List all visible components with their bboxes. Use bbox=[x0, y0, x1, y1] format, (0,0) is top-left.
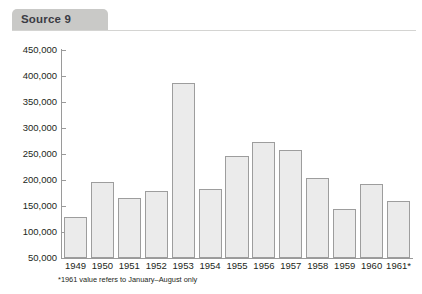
y-axis-tick-label: 450,000 bbox=[23, 45, 57, 55]
y-axis-tick-label: 300,000 bbox=[23, 123, 57, 133]
x-axis-tick-label: 1953 bbox=[170, 261, 197, 271]
bar bbox=[279, 150, 302, 258]
x-axis-tick-label: 1959 bbox=[331, 261, 358, 271]
y-axis-tick-label: 350,000 bbox=[23, 97, 57, 107]
x-axis-line bbox=[61, 258, 413, 259]
y-axis-tick: 50,000 bbox=[61, 258, 67, 259]
x-axis-labels: 1949195019511952195319541955195619571958… bbox=[62, 261, 412, 275]
bar-chart: 450,000400,000350,000300,000250,000200,0… bbox=[0, 0, 422, 294]
bar bbox=[145, 191, 168, 258]
y-axis-tick-label: 200,000 bbox=[23, 175, 57, 185]
y-axis-tick-label: 250,000 bbox=[23, 149, 57, 159]
y-axis-tick-label: 100,000 bbox=[23, 227, 57, 237]
bar bbox=[91, 182, 114, 258]
bar bbox=[387, 201, 410, 258]
bar bbox=[306, 178, 329, 258]
y-axis-tick-label: 150,000 bbox=[23, 201, 57, 211]
x-axis-tick-label: 1951 bbox=[116, 261, 143, 271]
bar bbox=[118, 198, 141, 258]
y-axis-tick-label: 50,000 bbox=[28, 253, 57, 263]
x-axis-tick-label: 1960 bbox=[358, 261, 385, 271]
bar bbox=[333, 209, 356, 258]
bar bbox=[360, 184, 383, 258]
x-axis-tick-label: 1955 bbox=[224, 261, 251, 271]
y-axis-tick-mark bbox=[61, 258, 66, 259]
x-axis-tick-label: 1950 bbox=[89, 261, 116, 271]
bar bbox=[64, 217, 87, 258]
x-axis-tick-label: 1957 bbox=[277, 261, 304, 271]
y-axis-tick-label: 400,000 bbox=[23, 71, 57, 81]
bar bbox=[199, 189, 222, 258]
x-axis-tick-label: 1954 bbox=[197, 261, 224, 271]
bar bbox=[172, 83, 195, 258]
bar bbox=[225, 156, 248, 258]
bar bbox=[252, 142, 275, 258]
x-axis-tick-label: 1949 bbox=[62, 261, 89, 271]
bar-series bbox=[62, 50, 412, 258]
chart-footnote: *1961 value refers to January–August onl… bbox=[58, 276, 197, 283]
x-axis-tick-label: 1958 bbox=[304, 261, 331, 271]
x-axis-tick-label: 1961* bbox=[385, 261, 412, 271]
x-axis-tick-label: 1956 bbox=[250, 261, 277, 271]
x-axis-tick-label: 1952 bbox=[143, 261, 170, 271]
